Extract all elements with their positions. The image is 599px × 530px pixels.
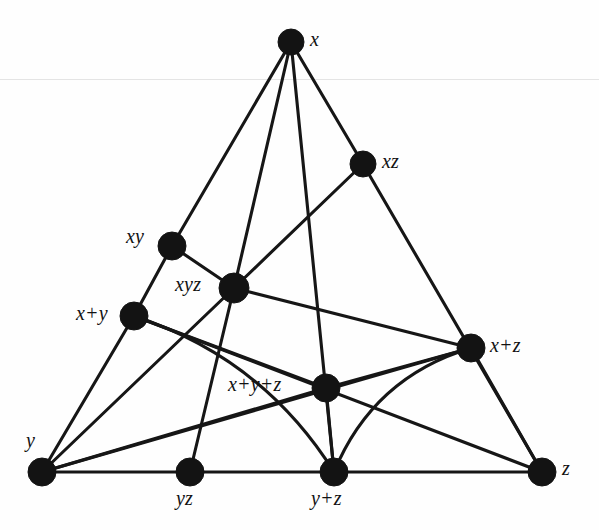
node-label-xy: xy	[126, 226, 144, 246]
node-label-x+z: x+z	[490, 335, 521, 355]
lattice-node-xyz[interactable]	[219, 273, 249, 303]
lattice-node-xy[interactable]	[158, 232, 186, 260]
lattice-graph-canvas	[0, 0, 599, 530]
lattice-edge-x-to-xy	[172, 42, 291, 246]
node-label-xyz: xyz	[175, 274, 201, 294]
node-label-x+y+z: x+y+z	[228, 374, 282, 394]
lattice-figure: xxzxyxyzx+yx+zx+y+zyyzy+zz	[0, 0, 599, 530]
lattice-node-z[interactable]	[528, 458, 556, 486]
lattice-node-x+z[interactable]	[457, 334, 485, 362]
lattice-node-x+y[interactable]	[120, 302, 148, 330]
node-label-xz: xz	[382, 151, 399, 171]
lattice-node-x+y+z[interactable]	[312, 374, 340, 402]
node-label-z: z	[562, 458, 570, 478]
lattice-node-x[interactable]	[278, 29, 304, 55]
node-label-yz: yz	[176, 488, 193, 508]
node-label-x+y: x+y	[76, 303, 108, 323]
lattice-node-yz[interactable]	[176, 458, 204, 486]
node-label-y+z: y+z	[311, 488, 342, 508]
lattice-edge-x-to-xyz	[234, 42, 291, 288]
lattice-node-xz[interactable]	[350, 151, 376, 177]
lattice-node-y+z[interactable]	[320, 458, 348, 486]
lattice-edge-x+z-to-z	[471, 348, 542, 472]
lattice-edge-xyz-to-x+z	[234, 288, 471, 348]
edges-layer	[42, 42, 542, 472]
lattice-edge-xz-to-xyz	[234, 164, 363, 288]
lattice-node-y[interactable]	[28, 458, 56, 486]
node-label-x: x	[310, 29, 319, 49]
node-label-y: y	[26, 430, 35, 450]
